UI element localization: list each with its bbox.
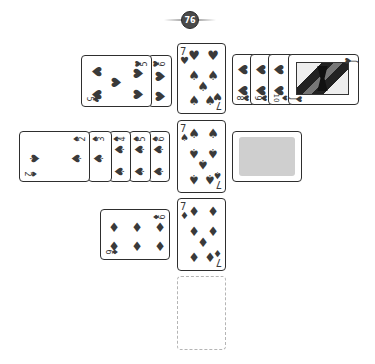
heart-pip: ♥ — [236, 63, 250, 76]
card-7-spades[interactable]: 7♠ ♠ ♠ ♠ ♠ ♠ ♠ ♠ 7♠ — [177, 120, 226, 193]
diamond-pip: ♦ — [153, 221, 167, 234]
spade-pip: ♠ — [196, 158, 210, 171]
spade-pip: ♠ — [70, 152, 84, 165]
heart-pip: ♥ — [110, 76, 124, 89]
card-jack-hearts[interactable]: ♥J J♥ — [288, 54, 359, 105]
spade-pip: ♠ — [152, 143, 166, 156]
heart-pip: ♥ — [187, 49, 201, 62]
heart-pip: ♠ — [196, 80, 210, 93]
spade-pip: ♠ — [187, 173, 201, 186]
heart-pip: ♥ — [272, 63, 286, 76]
spade-pip: ♠ — [152, 165, 166, 178]
card-7-hearts[interactable]: 7♥ ♥ ♥ ♠ ♠ ♠ ♠ ♠ 7♥ — [177, 43, 226, 114]
score-badge-container: 76 — [150, 8, 230, 32]
heart-pip: ♥ — [132, 67, 146, 80]
card-3-spades[interactable]: ♠3 ♠ — [88, 131, 112, 182]
diamond-pip: ♦ — [130, 240, 144, 253]
heart-pip: ♠ — [187, 94, 201, 107]
spade-pip: ♠ — [92, 152, 106, 165]
diamond-pip: ♦ — [107, 221, 121, 234]
card-5-hearts[interactable]: ♥5 5♥ ♥ ♥ ♥ ♥ ♥ — [81, 55, 152, 107]
spade-pip: ♠ — [28, 152, 42, 165]
diamond-pip: ♦ — [153, 240, 167, 253]
spade-pip: ♠ — [113, 143, 127, 156]
diamond-pip: ♦ — [187, 205, 201, 218]
spade-pip: ♠ — [206, 127, 220, 140]
diamond-pip: ♦ — [187, 251, 201, 264]
diamond-pip: ♦ — [206, 205, 220, 218]
spade-pip: ♠ — [133, 143, 147, 156]
heart-pip: ♥ — [254, 63, 268, 76]
card-back-pattern — [239, 137, 295, 176]
card-7-diamonds[interactable]: 7♦ ♦ ♦ ♦ ♦ ♦ ♦ ♦ 7♦ — [177, 198, 226, 271]
card-2-spades[interactable]: ♠2 ♠ ♠ 2♠ — [19, 131, 90, 182]
card-6-diamonds[interactable]: ♦6 ♦ ♦ ♦ ♦ ♦ ♦ 6♦ — [100, 209, 170, 260]
empty-clubs-slot[interactable] — [177, 276, 226, 350]
heart-pip: ♥ — [132, 88, 146, 101]
heart-pip: ♥ — [154, 90, 168, 103]
jack-face-art — [296, 62, 349, 95]
spade-pip: ♠ — [187, 127, 201, 140]
heart-pip: ♥ — [154, 70, 168, 83]
heart-pip: ♥ — [90, 88, 104, 101]
diamond-pip: ♦ — [130, 221, 144, 234]
spade-pip: ♠ — [113, 165, 127, 178]
spade-pip: ♠ — [133, 165, 147, 178]
card-face-down[interactable] — [232, 131, 302, 182]
card-5-spades[interactable]: ♠5 ♠ ♠ — [129, 131, 151, 182]
heart-pip: ♥ — [206, 49, 220, 62]
card-6-spades[interactable]: ♠6 ♠ ♠ — [148, 131, 170, 182]
score-badge: 76 — [181, 11, 199, 29]
card-4-spades[interactable]: ♠4 ♠ ♠ — [109, 131, 131, 182]
diamond-pip: ♦ — [196, 236, 210, 249]
heart-pip: ♥ — [90, 65, 104, 78]
